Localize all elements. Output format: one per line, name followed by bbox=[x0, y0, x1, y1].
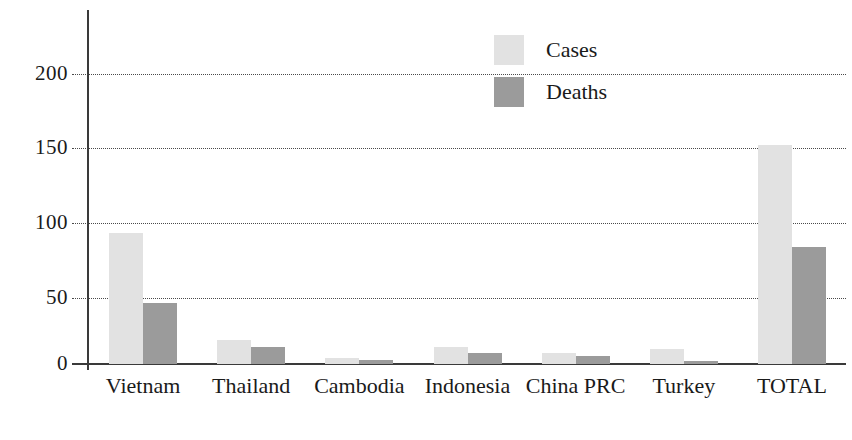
bar-china-prc-cases bbox=[542, 353, 576, 364]
legend-swatch-deaths-icon bbox=[494, 77, 524, 107]
bar-china-prc-deaths bbox=[576, 356, 610, 364]
bar-turkey-deaths bbox=[684, 361, 718, 364]
bar-cambodia-cases bbox=[325, 358, 359, 364]
bar-thailand-cases bbox=[217, 340, 251, 364]
bar-turkey-cases bbox=[650, 349, 684, 365]
bar-indonesia-cases bbox=[434, 347, 468, 364]
bar-thailand-deaths bbox=[251, 347, 285, 364]
legend-label-cases: Cases bbox=[546, 39, 597, 61]
legend-label-deaths: Deaths bbox=[546, 81, 607, 103]
x-label-turkey: Turkey bbox=[630, 373, 738, 399]
bar-total-deaths bbox=[792, 247, 826, 364]
bar-cambodia-deaths bbox=[359, 360, 393, 364]
x-label-total: TOTAL bbox=[738, 373, 846, 399]
x-label-china-prc: China PRC bbox=[522, 373, 630, 399]
bar-indonesia-deaths bbox=[468, 353, 502, 364]
bar-chart: 200 150 100 50 0 VietnamThailandCambodia… bbox=[0, 0, 852, 440]
legend-item-deaths: Deaths bbox=[494, 75, 607, 109]
x-label-indonesia: Indonesia bbox=[413, 373, 521, 399]
legend-item-cases: Cases bbox=[494, 33, 607, 67]
x-label-vietnam: Vietnam bbox=[89, 373, 197, 399]
x-label-thailand: Thailand bbox=[197, 373, 305, 399]
bar-total-cases bbox=[758, 145, 792, 364]
legend-swatch-cases-icon bbox=[494, 35, 524, 65]
bar-vietnam-deaths bbox=[143, 303, 177, 364]
bar-vietnam-cases bbox=[109, 233, 143, 364]
legend: Cases Deaths bbox=[494, 33, 607, 117]
x-axis-category-labels: VietnamThailandCambodiaIndonesiaChina PR… bbox=[0, 373, 852, 413]
x-label-cambodia: Cambodia bbox=[305, 373, 413, 399]
